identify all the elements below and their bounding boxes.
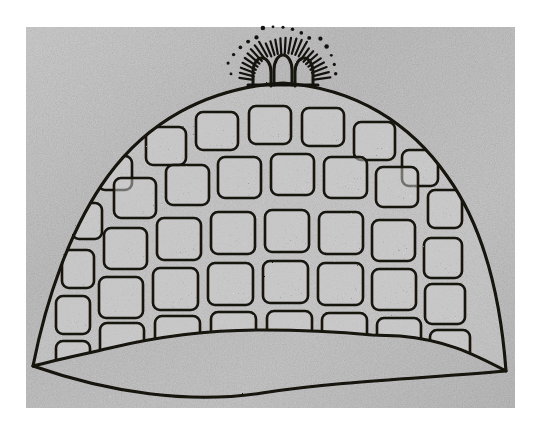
spark-dot — [291, 28, 294, 31]
spark-dot — [261, 26, 265, 30]
spark-dot — [307, 36, 311, 40]
spark-dot — [230, 72, 233, 75]
spark-dot — [281, 26, 284, 29]
quilt-cell — [376, 167, 418, 207]
spark-dot — [232, 53, 235, 56]
quilt-cell-shading — [302, 108, 344, 146]
quilt-cell — [318, 263, 363, 305]
quilt-cell — [425, 284, 465, 324]
quilt-cell — [166, 165, 209, 205]
quilt-cell — [249, 106, 291, 144]
quilt-cell-shading — [211, 212, 255, 254]
quilt-cell — [62, 250, 94, 288]
quilt-cell-shading — [218, 157, 261, 198]
spark-dot — [239, 46, 243, 50]
quilt-cell-shading — [263, 261, 308, 303]
spark-dot — [318, 37, 322, 41]
quilt-cell-shading — [425, 284, 465, 324]
spark-dot — [333, 63, 336, 66]
quilt-cell-shading — [424, 238, 462, 278]
spark-dot — [254, 35, 258, 39]
quilt-cell — [265, 210, 309, 252]
quilt-cell — [208, 263, 253, 305]
quilt-cell — [319, 212, 363, 254]
quilt-cell-shading — [157, 218, 201, 260]
quilt-cell — [211, 212, 255, 254]
quilt-cell-shading — [166, 165, 209, 205]
quilt-cell-shading — [428, 190, 462, 228]
quilt-cell — [153, 268, 198, 310]
spark-dot — [330, 54, 333, 57]
quilt-cell — [428, 190, 462, 228]
spark-dot — [246, 40, 250, 44]
quilt-cell-shading — [104, 228, 147, 269]
scanned-illustration — [0, 0, 539, 447]
quilt-cell-shading — [372, 220, 415, 261]
quilt-cell-shading — [208, 263, 253, 305]
spark-dot — [227, 62, 230, 65]
spark-dot — [272, 25, 275, 28]
quilt-cell-shading — [114, 178, 156, 218]
quilt-cell-shading — [271, 154, 314, 195]
quilt-cell — [99, 277, 143, 318]
quilt-cell-shading — [249, 106, 291, 144]
quilt-cell — [104, 228, 147, 269]
quilt-cell-shading — [354, 122, 395, 160]
quilt-cell — [324, 157, 367, 198]
ray-dash — [285, 38, 286, 53]
quilt-cell-shading — [56, 296, 90, 334]
spark-dot — [324, 44, 328, 48]
quilt-cell — [372, 220, 415, 261]
quilt-cell-shading — [319, 212, 363, 254]
quilt-cell — [56, 296, 90, 334]
spark-dot — [334, 72, 337, 75]
spark-dot — [299, 31, 303, 35]
quilt-cell — [146, 127, 186, 165]
quilt-cell-shading — [153, 268, 198, 310]
quilt-cell-shading — [146, 127, 186, 165]
quilt-cell-shading — [99, 277, 143, 318]
quilt-cell — [271, 154, 314, 195]
quilt-cell-shading — [376, 167, 418, 207]
quilt-cell — [424, 238, 462, 278]
quilt-cell-shading — [265, 210, 309, 252]
quilt-cell-shading — [196, 112, 238, 150]
quilt-cell — [157, 218, 201, 260]
quilt-cell — [218, 157, 261, 198]
quilt-cell-shading — [62, 250, 94, 288]
quilt-cell — [263, 261, 308, 303]
quilt-cell — [302, 108, 344, 146]
figure-root: Quilted dome helmet with three-arch cres… — [0, 0, 539, 447]
quilt-cell-shading — [318, 263, 363, 305]
quilt-cell — [372, 269, 416, 310]
quilt-cell-shading — [372, 269, 416, 310]
quilt-cell — [114, 178, 156, 218]
ray-dash — [280, 38, 281, 53]
quilt-cell — [196, 112, 238, 150]
quilt-cell-shading — [324, 157, 367, 198]
quilt-cell — [354, 122, 395, 160]
